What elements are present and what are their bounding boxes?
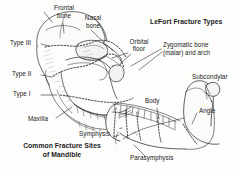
leader-orbital-floor-2 bbox=[121, 54, 131, 63]
label-frontal-bone-line1: Frontal bbox=[44, 4, 84, 11]
body-fracture-line bbox=[158, 117, 161, 142]
anatomy-figure: LeFort Fracture Types Common Fracture Si… bbox=[0, 0, 240, 171]
label-subcondylar: Subcondylar bbox=[192, 73, 228, 80]
label-orbital-floor-line2: floor bbox=[124, 45, 154, 52]
label-type-iii: Type III bbox=[10, 39, 31, 46]
label-angle: Angle bbox=[199, 107, 215, 114]
leader-type-ii bbox=[41, 75, 52, 77]
title-mandible-line1: Common Fracture Sites bbox=[14, 142, 110, 150]
label-zygomatic-line1: Zygomatic bone bbox=[163, 41, 209, 48]
label-nasal-bone-line2: bone bbox=[78, 22, 108, 29]
label-maxilla: Maxilla bbox=[28, 115, 48, 122]
title-mandible-line2: of Mandible bbox=[14, 151, 110, 159]
mandible-drawing bbox=[106, 81, 220, 150]
title-lefort: LeFort Fracture Types bbox=[150, 18, 222, 26]
label-nasal-bone-line1: Nasal bbox=[78, 14, 108, 21]
label-symphysis: Symphysis bbox=[79, 130, 110, 137]
label-zygomatic-line2: (malar) and arch bbox=[163, 49, 210, 56]
label-type-ii: Type II bbox=[12, 70, 31, 77]
label-body: Body bbox=[145, 97, 160, 104]
label-type-i: Type I bbox=[13, 90, 30, 97]
label-parasymphysis: Parasymphysis bbox=[130, 154, 173, 161]
lefort-i-line bbox=[60, 95, 133, 102]
